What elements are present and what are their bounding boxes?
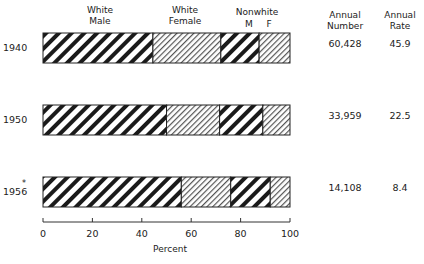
bar-segment-white-male — [43, 177, 181, 207]
annual-number-value: 60,428 — [318, 38, 372, 49]
bar-segment-nonwhite-m — [221, 33, 259, 63]
annual-rate-value: 22.5 — [380, 110, 420, 121]
annual-rate-value: 8.4 — [380, 182, 420, 193]
x-tick-label: 80 — [235, 228, 247, 239]
bar-segment-white-male — [43, 33, 153, 63]
annual-rate-value: 45.9 — [380, 38, 420, 49]
bar-segment-white-female — [153, 33, 221, 63]
x-tick-label: 40 — [136, 228, 148, 239]
bar-segment-nonwhite-f — [259, 33, 290, 63]
bar-segment-white-female — [181, 177, 230, 207]
annual-number-value: 14,108 — [318, 182, 372, 193]
footnote-marker: * — [22, 178, 26, 189]
bar-segment-nonwhite-m — [220, 105, 263, 135]
x-axis: 020406080100 — [40, 218, 299, 239]
annual-number-value: 33,959 — [318, 110, 372, 121]
x-axis-label: Percent — [140, 244, 200, 255]
x-tick-label: 60 — [185, 228, 197, 239]
bar-segment-white-male — [43, 105, 167, 135]
bar-segment-nonwhite-f — [263, 105, 290, 135]
row-year-label: 1940 — [3, 42, 27, 53]
bars-group — [43, 33, 290, 207]
bar-segment-white-female — [167, 105, 220, 135]
row-year-label: 1950 — [3, 114, 27, 125]
x-tick-label: 0 — [40, 228, 46, 239]
x-tick-label: 20 — [86, 228, 98, 239]
x-tick-label: 100 — [281, 228, 299, 239]
bar-segment-nonwhite-f — [270, 177, 290, 207]
bar-segment-nonwhite-m — [231, 177, 271, 207]
